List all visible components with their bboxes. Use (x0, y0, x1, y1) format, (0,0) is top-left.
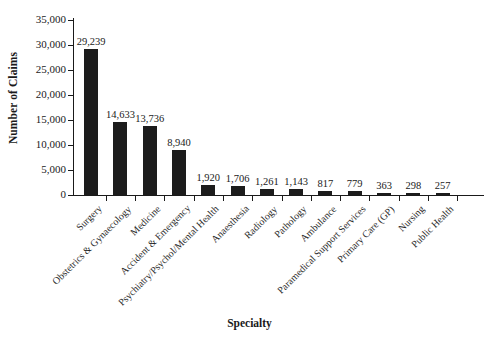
y-axis-tick-label-text: 20,000 (6, 89, 66, 100)
y-axis-tick-label: 10,000 (0, 139, 66, 150)
x-axis-tick (223, 196, 224, 201)
x-axis-tick (311, 196, 312, 201)
x-axis-title-text: Specialty (227, 317, 272, 329)
bar-value-label: 8,940 (149, 137, 209, 148)
y-axis-tick-label: 20,000 (0, 89, 66, 100)
bar (260, 189, 274, 195)
x-axis-tick (194, 196, 195, 201)
y-axis-tick-label: 0 (0, 189, 66, 200)
bar-value-label: 29,239 (61, 36, 121, 47)
y-axis-tick (68, 170, 73, 171)
y-axis-tick-label-text: 5,000 (6, 164, 66, 175)
bar (406, 193, 420, 195)
bar-value-label: 13,736 (120, 113, 180, 124)
x-axis-tick (399, 196, 400, 201)
x-axis-tick (282, 196, 283, 201)
x-axis-tick (369, 196, 370, 201)
y-axis-tick (68, 145, 73, 146)
bar (289, 189, 303, 195)
x-axis-tick (106, 196, 107, 201)
y-axis-tick-label: 15,000 (0, 114, 66, 125)
x-axis-tick (135, 196, 136, 201)
y-axis-tick (68, 70, 73, 71)
y-axis-tick-label-text: 35,000 (6, 14, 66, 25)
y-axis-tick-label: 30,000 (0, 39, 66, 50)
bar (84, 49, 98, 195)
bar (436, 193, 450, 195)
x-axis-tick (164, 196, 165, 201)
y-axis-tick-label: 25,000 (0, 64, 66, 75)
x-axis-tick (340, 196, 341, 201)
bar (318, 191, 332, 195)
x-axis-title: Specialty (0, 317, 499, 329)
y-axis-tick-label-text: 15,000 (6, 114, 66, 125)
bar (231, 186, 245, 195)
x-axis-tick (457, 196, 458, 201)
bar (377, 193, 391, 195)
bar (113, 122, 127, 195)
bar-chart: Number of Claims 05,00010,00015,00020,00… (0, 0, 499, 348)
y-axis-tick (68, 120, 73, 121)
y-axis-tick (68, 95, 73, 96)
y-axis-tick-label: 35,000 (0, 14, 66, 25)
y-axis-tick-label-text: 10,000 (6, 139, 66, 150)
x-axis-tick (428, 196, 429, 201)
y-axis-tick-label: 5,000 (0, 164, 66, 175)
y-axis-tick (68, 20, 73, 21)
x-axis-tick (252, 196, 253, 201)
bar (201, 185, 215, 195)
y-axis-tick-label-text: 0 (6, 189, 66, 200)
bar (348, 191, 362, 195)
y-axis-tick-label-text: 25,000 (6, 64, 66, 75)
y-axis-tick-label-text: 30,000 (6, 39, 66, 50)
bar-value-label: 257 (413, 180, 473, 191)
y-axis-tick (68, 195, 73, 196)
